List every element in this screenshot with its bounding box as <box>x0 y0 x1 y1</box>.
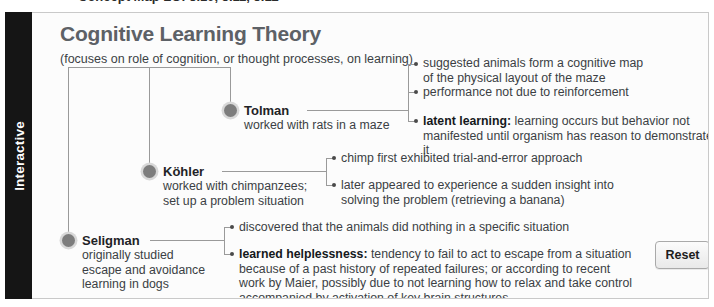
node-name-kohler: Köhler <box>163 164 204 179</box>
bullet-dot <box>414 62 418 66</box>
node-description-seligman: originally studied escape and avoidance … <box>82 248 205 292</box>
page-subtitle: (focuses on role of cognition, or though… <box>60 52 413 66</box>
seligman-bracket <box>224 227 225 254</box>
kohler-bracket <box>326 158 327 185</box>
bullet-body: suggested animals form a cognitive map o… <box>423 56 643 85</box>
seligman-stem <box>150 240 224 241</box>
bullet-dot <box>414 90 418 94</box>
clipped-header-text: Concept Map LO: 5.10, 5.11, 5.12 <box>78 0 279 4</box>
bullet-dot <box>230 225 234 229</box>
node-name-tolman: Tolman <box>244 103 289 118</box>
bullet-body: performance not due to reinforcement <box>423 85 629 99</box>
node-dot-kohler <box>143 165 156 178</box>
bullet-text-kohler-2: later appeared to experience a sudden in… <box>341 178 651 207</box>
bullet-text-tolman-1: suggested animals form a cognitive map o… <box>423 56 693 85</box>
tree-branch-seligman <box>68 67 69 240</box>
interactive-tab-label: Interactive <box>11 121 26 191</box>
bullet-text-seligman-2: learned helplessness: tendency to fail t… <box>239 247 659 299</box>
reset-button[interactable]: Reset <box>655 241 709 269</box>
bullet-text-seligman-1: discovered that the animals did nothing … <box>239 220 639 235</box>
bullet-body: chimp first exhibited trial-and-error ap… <box>341 151 582 165</box>
bullet-dot <box>414 119 418 123</box>
bullet-dot <box>332 156 336 160</box>
tolman-stem <box>307 110 408 111</box>
node-dot-tolman <box>224 104 237 117</box>
node-dot-seligman <box>62 234 75 247</box>
kohler-stem <box>222 171 326 172</box>
concept-map-widget: Concept Map LO: 5.10, 5.11, 5.12 Interac… <box>0 0 714 307</box>
tree-branch-kohler <box>149 67 150 171</box>
bullet-body: later appeared to experience a sudden in… <box>341 178 614 207</box>
node-description-kohler: worked with chimpanzees; set up a proble… <box>163 179 307 208</box>
concept-map-panel: Cognitive Learning Theory (focuses on ro… <box>32 12 709 299</box>
node-name-seligman: Seligman <box>82 233 140 248</box>
bullet-term: learned helplessness: <box>239 247 368 261</box>
bullet-text-kohler-1: chimp first exhibited trial-and-error ap… <box>341 151 641 166</box>
bullet-body: discovered that the animals did nothing … <box>239 220 569 234</box>
bullet-text-tolman-2: performance not due to reinforcement <box>423 85 703 100</box>
clipped-header-strip: Concept Map LO: 5.10, 5.11, 5.12 <box>0 0 714 9</box>
bullet-dot <box>230 252 234 256</box>
bullet-term: latent learning: <box>423 114 511 128</box>
bullet-dot <box>332 183 336 187</box>
node-description-tolman: worked with rats in a maze <box>244 118 390 133</box>
page-title: Cognitive Learning Theory <box>60 22 321 46</box>
interactive-tab[interactable]: Interactive <box>5 12 32 299</box>
